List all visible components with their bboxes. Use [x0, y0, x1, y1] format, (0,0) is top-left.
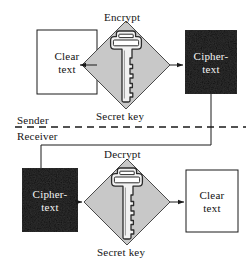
sender-ciphertext-box	[185, 30, 237, 94]
receiver-secret-key-label: Secret key	[97, 246, 145, 258]
sender-secret-key-label: Secret key	[96, 110, 144, 122]
decrypt-label: Decrypt	[104, 148, 141, 160]
encryption-diagram: Clear text Encrypt Secret key Cipher- te…	[0, 0, 250, 260]
receiver-lane-label: Receiver	[17, 130, 58, 142]
receiver-ciphertext-box	[22, 168, 78, 232]
receiver-cleartext-box	[186, 170, 238, 232]
encrypt-label: Encrypt	[104, 11, 140, 23]
sender-lane-label: Sender	[17, 114, 49, 126]
